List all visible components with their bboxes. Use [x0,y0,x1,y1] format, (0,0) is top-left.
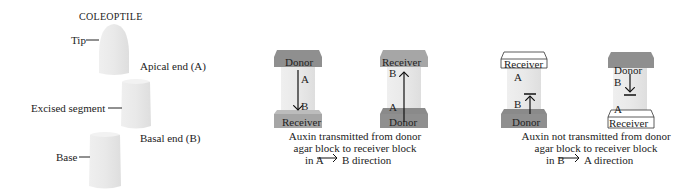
exp2-right-top-letter: B [614,76,621,88]
exp2-left-top-letter: A [514,71,522,83]
exp2-right-bottom-block-label: Receiver [609,117,648,129]
caption2-prefix: in B [546,154,565,166]
exp2-left-bottom-letter: B [514,98,521,110]
exp1-right-top-letter: B [389,67,396,79]
exp1-left-top-block-label: Donor [285,56,313,68]
basal-end-label: Basal end (B) [140,132,200,144]
caption-not-transmitted-line-2: agar block to receiver block [496,142,691,154]
exp1-left-top-letter: A [301,73,309,85]
exp1-right-top-block-label: Receiver [382,56,421,68]
caption2-suffix: A direction [584,154,633,166]
exp2-right-top-block-label: Donor [614,64,642,76]
caption-transmitted-line-1: Auxin transmitted from donor [260,130,450,142]
caption-transmitted-line-2: agar block to receiver block [260,142,450,154]
excised-segment-label: Excised segment [31,102,105,114]
exp1-left-bottom-block-label: Receiver [282,116,321,128]
caption1-suffix: B direction [342,154,391,166]
coleoptile-tip-shape [99,24,129,75]
tip-label: Tip [71,34,86,46]
excised-segment-shape [121,79,151,129]
base-label: Base [56,151,77,163]
exp1-right-bottom-letter: A [389,101,397,113]
coleoptile-title: COLEOPTILE [79,11,143,22]
base-shape [89,132,121,189]
apical-end-label: Apical end (A) [140,60,206,72]
diagram-canvas [0,0,691,196]
exp2-left-top-block-label: Receiver [504,58,543,70]
exp1-right-bottom-block-label: Donor [389,116,417,128]
exp1-left-bottom-letter: B [301,100,308,112]
caption-not-transmitted-line-1: Auxin not transmitted from donor [496,130,691,142]
exp2-left-bottom-block-label: Donor [512,116,540,128]
caption1-prefix: in A [305,154,324,166]
exp2-right-bottom-letter: A [614,103,622,115]
